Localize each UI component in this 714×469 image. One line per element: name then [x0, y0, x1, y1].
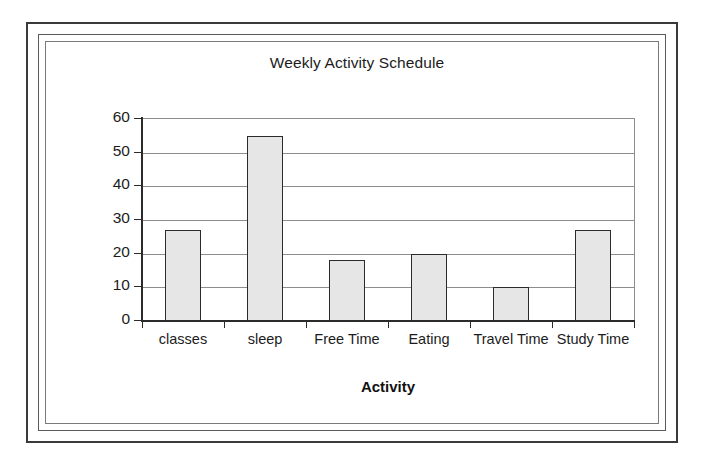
- y-tick-mark: [134, 320, 142, 321]
- x-tick-mark: [552, 321, 553, 328]
- bar: [493, 287, 529, 321]
- y-tick-mark: [134, 219, 142, 220]
- x-tick-mark: [306, 321, 307, 328]
- plot-area: [142, 118, 635, 321]
- y-tick-label: 50: [90, 142, 130, 160]
- bar: [329, 260, 365, 321]
- gridline: [142, 254, 634, 255]
- y-tick-mark: [134, 152, 142, 153]
- y-tick-label: 20: [90, 243, 130, 261]
- x-category-label: Free Time: [306, 331, 388, 348]
- bar: [411, 254, 447, 321]
- chart-title: Weekly Activity Schedule: [0, 54, 714, 72]
- gridline: [142, 287, 634, 288]
- gridline: [142, 186, 634, 187]
- y-tick-mark: [134, 286, 142, 287]
- bar-chart: Weekly Activity Schedule 6050403020100 c…: [0, 0, 714, 469]
- x-tick-mark: [470, 321, 471, 328]
- x-category-label: sleep: [224, 331, 306, 348]
- gridline: [142, 153, 634, 154]
- y-tick-mark: [134, 118, 142, 119]
- y-tick-label: 10: [90, 276, 130, 294]
- x-tick-mark: [142, 321, 143, 328]
- x-tick-mark: [388, 321, 389, 328]
- y-tick-label: 60: [90, 108, 130, 126]
- x-category-label: Study Time: [552, 331, 634, 348]
- x-category-label: Travel Time: [470, 331, 552, 348]
- bar: [165, 230, 201, 321]
- y-tick-label: 40: [90, 175, 130, 193]
- x-tick-mark: [224, 321, 225, 328]
- y-tick-label: 0: [90, 310, 130, 328]
- gridline: [142, 220, 634, 221]
- y-tick-mark: [134, 185, 142, 186]
- x-category-label: Eating: [388, 331, 470, 348]
- bar: [247, 136, 283, 321]
- y-tick-mark: [134, 253, 142, 254]
- bar: [575, 230, 611, 321]
- y-tick-label: 30: [90, 209, 130, 227]
- x-category-label: classes: [142, 331, 224, 348]
- x-tick-mark: [634, 321, 635, 328]
- x-axis-title: Activity: [142, 378, 634, 395]
